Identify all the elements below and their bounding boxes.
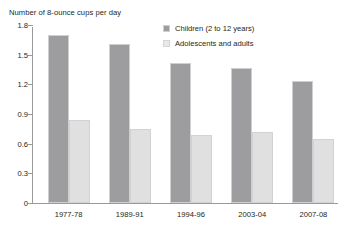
legend: Children (2 to 12 years) Adolescents and… (163, 22, 338, 52)
legend-item-children: Children (2 to 12 years) (163, 22, 338, 35)
bar-2003-04-series-1 (231, 68, 252, 203)
y-tick-label: 1.5 (17, 50, 28, 59)
y-tick-label: 1.2 (17, 80, 28, 89)
bar-2007-08-series-1 (292, 81, 313, 203)
bar-chart-figure: Number of 8-ounce cups per day 00.30.60.… (0, 0, 343, 232)
cropped-title-remnant (8, 0, 338, 3)
bar-1977-78-series-2 (69, 120, 90, 203)
x-tick-label-1994-96: 1994-96 (177, 210, 205, 219)
bar-group-1989-91 (109, 25, 151, 203)
y-tick-label: 0.9 (17, 110, 28, 119)
bar-1989-91-series-1 (109, 44, 130, 203)
x-tick-label-2007-08: 2007-08 (299, 210, 327, 219)
bar-group-1977-78 (48, 25, 90, 203)
bar-1994-96-series-2 (191, 135, 212, 203)
bar-1989-91-series-2 (130, 129, 151, 203)
legend-swatch-adolescents-adults-icon (163, 40, 170, 47)
x-tick-label-2003-04: 2003-04 (238, 210, 266, 219)
x-tick-label-1989-91: 1989-91 (116, 210, 144, 219)
legend-item-adolescents-adults: Adolescents and adults (163, 37, 338, 50)
y-tick-label: 0 (24, 199, 28, 208)
bar-1994-96-series-1 (170, 63, 191, 203)
y-tick-label: 1.8 (17, 21, 28, 30)
y-tick-label: 0.6 (17, 139, 28, 148)
bar-1977-78-series-1 (48, 35, 69, 203)
bar-2007-08-series-2 (313, 139, 334, 203)
y-tick-label: 0.3 (17, 169, 28, 178)
bar-2003-04-series-2 (252, 132, 273, 203)
x-tick-label-1977-78: 1977-78 (55, 210, 83, 219)
y-axis-title: Number of 8-ounce cups per day (9, 8, 121, 17)
legend-label-adolescents-adults: Adolescents and adults (175, 39, 254, 48)
legend-label-children: Children (2 to 12 years) (175, 24, 254, 33)
legend-swatch-children-icon (163, 25, 170, 32)
